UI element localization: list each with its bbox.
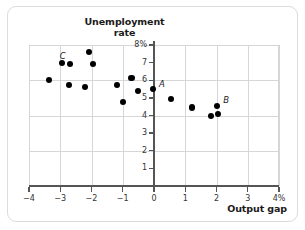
scatter-point: [90, 61, 96, 67]
y-tick-mark: [149, 132, 154, 133]
scatter-point: [208, 113, 214, 119]
x-tick-mark: [153, 187, 154, 192]
scatter-point: [168, 96, 174, 102]
x-tick-mark: [122, 187, 123, 192]
y-tick-label: 8%: [125, 40, 147, 49]
y-tick-mark: [149, 62, 154, 63]
scatter-point: [128, 75, 134, 81]
y-tick-mark: [149, 80, 154, 81]
scatter-point: [150, 86, 156, 92]
x-tick-label: 4%: [267, 194, 291, 203]
scatter-point: [82, 84, 88, 90]
scatter-point: [114, 82, 120, 88]
scatter-point-label: B: [223, 95, 229, 105]
x-tick-mark: [185, 187, 186, 192]
y-tick-label: 2: [125, 146, 147, 155]
y-tick-mark: [149, 97, 154, 98]
x-tick-mark: [216, 187, 217, 192]
scatter-point: [67, 61, 73, 67]
y-tick-label: 4: [125, 111, 147, 120]
x-tick-label: −2: [80, 194, 104, 203]
x-tick-mark: [247, 187, 248, 192]
y-tick-mark: [149, 115, 154, 116]
x-tick-mark: [278, 187, 279, 192]
scatter-point: [66, 82, 72, 88]
x-tick-label: 3: [236, 194, 260, 203]
y-tick-mark: [149, 168, 154, 169]
y-tick-label: 1: [125, 163, 147, 172]
chart-figure: Unemployment rate Output gap 12345678% −…: [0, 0, 305, 230]
x-tick-mark: [28, 187, 29, 192]
y-tick-mark: [149, 44, 154, 45]
gridline-vertical: [279, 45, 280, 186]
x-axis-label: Output gap: [227, 203, 287, 214]
scatter-point-label: A: [159, 79, 165, 89]
x-tick-label: 1: [173, 194, 197, 203]
x-tick-label: −1: [111, 194, 135, 203]
x-tick-label: 2: [205, 194, 229, 203]
x-tick-label: −3: [48, 194, 72, 203]
y-tick-mark: [149, 150, 154, 151]
scatter-point: [189, 104, 195, 110]
x-tick-mark: [91, 187, 92, 192]
scatter-point: [46, 77, 52, 83]
x-tick-label: −4: [17, 194, 41, 203]
y-tick-label: 5: [125, 93, 147, 102]
chart-title-line-2: rate: [0, 27, 277, 38]
plot-area: 12345678% −4−3−2−101234% CAB: [29, 45, 279, 186]
chart-title: Unemployment rate: [0, 16, 277, 38]
scatter-point: [215, 111, 221, 117]
scatter-point-label: C: [60, 51, 66, 61]
y-tick-label: 3: [125, 128, 147, 137]
chart-title-line-1: Unemployment: [0, 16, 277, 27]
x-tick-mark: [60, 187, 61, 192]
scatter-point: [135, 88, 141, 94]
x-tick-label: 0: [142, 194, 166, 203]
y-tick-label: 7: [125, 58, 147, 67]
scatter-point: [120, 99, 126, 105]
scatter-point: [214, 103, 220, 109]
